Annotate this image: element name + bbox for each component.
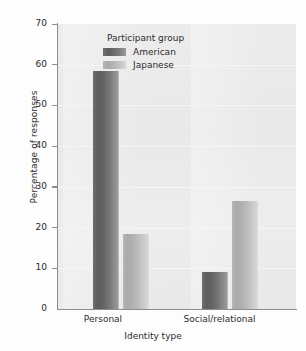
y-tick-mark-20 bbox=[52, 227, 58, 228]
legend-swatch-japanese bbox=[103, 61, 126, 69]
legend-item-japanese: Japanese bbox=[103, 60, 184, 70]
y-tick-mark-50 bbox=[52, 105, 58, 106]
bar-personal-japanese bbox=[123, 234, 149, 309]
legend-label-american: American bbox=[133, 47, 176, 57]
y-tick-label-0: 0 bbox=[7, 304, 47, 313]
y-tick-mark-60 bbox=[52, 64, 58, 65]
bar-social-relational-japanese bbox=[232, 201, 258, 309]
x-axis-line bbox=[57, 309, 297, 310]
y-tick-label-10: 10 bbox=[7, 263, 47, 272]
x-axis-title: Identity type bbox=[0, 331, 306, 341]
bar-chart-figure: Percentage of responses 70 60 50 40 30 2… bbox=[0, 0, 306, 351]
legend-swatch-american bbox=[103, 48, 126, 56]
y-tick-label-60: 60 bbox=[7, 60, 47, 69]
y-tick-mark-70 bbox=[52, 24, 58, 25]
legend-label-japanese: Japanese bbox=[133, 60, 174, 70]
x-tick-label-social-relational: Social/relational bbox=[162, 314, 277, 324]
y-tick-label-40: 40 bbox=[7, 141, 47, 150]
legend-title: Participant group bbox=[103, 33, 184, 43]
x-tick-label-personal: Personal bbox=[53, 314, 153, 324]
y-tick-label-70: 70 bbox=[7, 19, 47, 28]
y-tick-label-50: 50 bbox=[7, 100, 47, 109]
y-tick-mark-40 bbox=[52, 146, 58, 147]
y-tick-label-30: 30 bbox=[7, 182, 47, 191]
bar-social-relational-american bbox=[202, 272, 228, 309]
legend-item-american: American bbox=[103, 47, 184, 57]
y-tick-label-20: 20 bbox=[7, 223, 47, 232]
y-tick-mark-10 bbox=[52, 268, 58, 269]
bar-personal-american bbox=[93, 71, 119, 309]
y-tick-mark-30 bbox=[52, 186, 58, 187]
legend: Participant group American Japanese bbox=[103, 33, 184, 73]
